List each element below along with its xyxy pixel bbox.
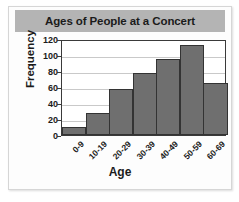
bar-series: [62, 41, 225, 135]
chart-title: Ages of People at a Concert: [45, 15, 195, 27]
y-axis-tick-labels: 020406080100120: [25, 40, 58, 136]
bar: [156, 59, 180, 135]
y-axis-tick-label: 120: [32, 36, 58, 45]
y-axis-tick-label: 100: [32, 52, 58, 61]
chart-title-banner: Ages of People at a Concert: [15, 10, 225, 32]
bar: [109, 89, 133, 135]
y-axis-tick-label: 60: [32, 84, 58, 93]
y-axis-tick-label: 80: [32, 68, 58, 77]
bar: [62, 127, 86, 135]
bar: [133, 73, 157, 135]
y-axis-tick-label: 0: [32, 132, 58, 141]
y-axis-tick-label: 40: [32, 100, 58, 109]
y-axis-tick-label: 20: [32, 116, 58, 125]
plot-area: [61, 40, 226, 136]
chart-figure: Ages of People at a Concert Frequency 02…: [8, 6, 232, 190]
x-axis-label: Age: [9, 165, 231, 179]
bar: [180, 45, 204, 135]
bar: [86, 113, 110, 135]
bar: [203, 83, 227, 135]
